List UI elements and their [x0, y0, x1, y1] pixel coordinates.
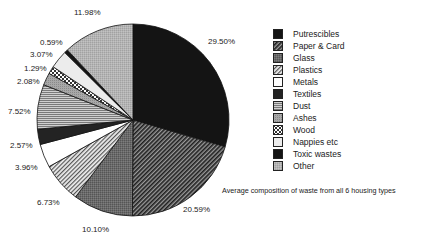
legend-swatch-icon — [273, 89, 283, 99]
slice-label: 2.08% — [17, 77, 40, 87]
legend-label: Dust — [293, 100, 310, 112]
legend-swatch-icon — [273, 137, 283, 147]
legend-item: Glass — [273, 52, 345, 64]
legend-item: Nappies etc — [273, 136, 345, 148]
legend-label: Putrescibles — [293, 28, 339, 40]
slice-label: 20.59% — [183, 205, 210, 215]
pie-chart — [0, 0, 426, 237]
slice-label: 3.07% — [30, 50, 53, 60]
slice-label: 1.29% — [24, 64, 47, 74]
legend-label: Plastics — [293, 64, 322, 76]
legend-item: Toxic wastes — [273, 148, 345, 160]
legend-item: Plastics — [273, 64, 345, 76]
legend-swatch-icon — [273, 161, 283, 171]
pie-slices — [37, 24, 229, 216]
legend-item: Paper & Card — [273, 40, 345, 52]
legend-swatch-icon — [273, 149, 283, 159]
legend-item: Wood — [273, 124, 345, 136]
slice-label: 11.98% — [74, 8, 101, 18]
legend-item: Ashes — [273, 112, 345, 124]
slice-label: 7.52% — [8, 107, 31, 117]
legend-label: Other — [293, 160, 314, 172]
legend-label: Metals — [293, 76, 318, 88]
legend-label: Toxic wastes — [293, 148, 341, 160]
legend-item: Metals — [273, 76, 345, 88]
legend-swatch-icon — [273, 53, 283, 63]
legend-label: Glass — [293, 52, 315, 64]
legend-item: Textiles — [273, 88, 345, 100]
slice-label: 29.50% — [208, 37, 235, 47]
slice-label: 0.59% — [40, 38, 63, 48]
slice-label: 3.96% — [15, 163, 38, 173]
slice-label: 6.73% — [37, 198, 60, 208]
slice-label: 10.10% — [82, 225, 109, 235]
legend-swatch-icon — [273, 77, 283, 87]
legend-swatch-icon — [273, 125, 283, 135]
chart-caption: Average composition of waste from all 6 … — [222, 186, 396, 195]
legend-label: Nappies etc — [293, 136, 338, 148]
legend-swatch-icon — [273, 29, 283, 39]
legend-item: Putrescibles — [273, 28, 345, 40]
legend-label: Ashes — [293, 112, 317, 124]
legend-swatch-icon — [273, 101, 283, 111]
legend-swatch-icon — [273, 113, 283, 123]
legend-item: Other — [273, 160, 345, 172]
legend-label: Wood — [293, 124, 315, 136]
slice-label: 2.57% — [10, 141, 33, 151]
legend-label: Paper & Card — [293, 40, 345, 52]
legend-swatch-icon — [273, 65, 283, 75]
legend-item: Dust — [273, 100, 345, 112]
legend: PutresciblesPaper & CardGlassPlasticsMet… — [273, 28, 345, 172]
legend-swatch-icon — [273, 41, 283, 51]
legend-label: Textiles — [293, 88, 321, 100]
